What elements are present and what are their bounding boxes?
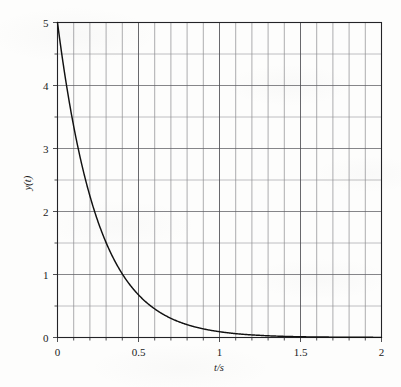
chart-figure: 00.511.52 012345 t/s y(t): [0, 0, 401, 387]
x-axis-tick-labels: 00.511.52: [55, 346, 385, 358]
y-axis-tick-labels: 012345: [43, 17, 49, 344]
y-tick-label: 5: [43, 17, 49, 29]
x-axis-title: t/s: [214, 362, 224, 373]
y-tick-label: 0: [43, 332, 49, 344]
y-tick-label: 2: [43, 206, 49, 218]
y-axis-title: y(t): [22, 175, 34, 191]
x-tick-label: 0.5: [132, 346, 146, 358]
x-tick-label: 1: [217, 346, 223, 358]
y-tick-label: 3: [43, 143, 49, 155]
x-axis-tick-marks: [58, 338, 382, 343]
plot-canvas: 00.511.52 012345 t/s y(t): [0, 0, 401, 387]
y-tick-label: 4: [43, 80, 49, 92]
y-tick-label: 1: [43, 269, 49, 281]
x-tick-label: 0: [55, 346, 61, 358]
x-tick-label: 2: [379, 346, 385, 358]
y-axis-tick-marks: [53, 23, 58, 338]
x-tick-label: 1.5: [294, 346, 308, 358]
